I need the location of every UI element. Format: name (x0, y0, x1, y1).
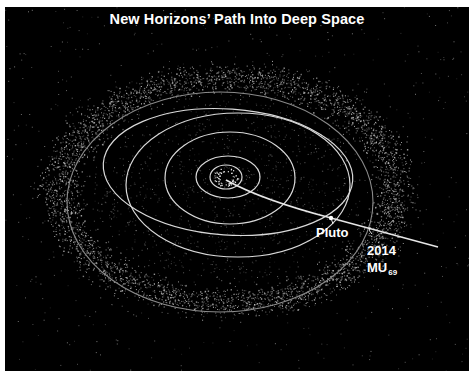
background-stars (5, 7, 469, 371)
kuiper-belt-dust (34, 61, 421, 321)
mu69-label-designation: MU69 (367, 259, 397, 281)
solar-system-diagram (5, 7, 469, 371)
asteroid-belt-dots (214, 169, 239, 187)
mu69-label-year: 2014 (367, 242, 397, 259)
pluto-label: Pluto (316, 226, 349, 240)
diagram-title: New Horizons’ Path Into Deep Space (5, 11, 469, 27)
mu69-label: 2014 MU69 (367, 242, 397, 281)
diagram-panel: New Horizons’ Path Into Deep Space Pluto… (5, 7, 469, 371)
pluto-label-text: Pluto (316, 225, 349, 240)
mu69-label-subscript: 69 (388, 268, 397, 277)
saturn-orbit (165, 132, 295, 224)
